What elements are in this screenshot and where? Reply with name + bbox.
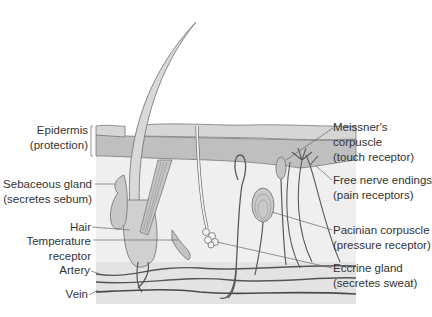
epidermis-bracket [91, 126, 93, 156]
label-pacinian-corpuscle: Pacinian corpuscle (pressure receptor) [333, 223, 431, 253]
label-temperature-receptor: Temperature receptor [26, 234, 91, 264]
meissner-corpuscle [276, 157, 286, 179]
label-hair: Hair [70, 220, 91, 235]
label-epidermis: Epidermis (protection) [30, 123, 88, 153]
pacinian-corpuscle [252, 188, 274, 222]
label-artery: Artery [59, 263, 90, 278]
label-sebaceous-gland: Sebaceous gland (secretes sebum) [3, 177, 92, 207]
label-vein: Vein [66, 287, 88, 302]
label-eccrine-gland: Eccrine gland (secretes sweat) [333, 261, 417, 291]
label-free-nerve-endings: Free nerve endings (pain receptors) [333, 173, 432, 203]
label-meissner-corpuscle: Meissner's corpuscle (touch receptor) [333, 120, 414, 165]
